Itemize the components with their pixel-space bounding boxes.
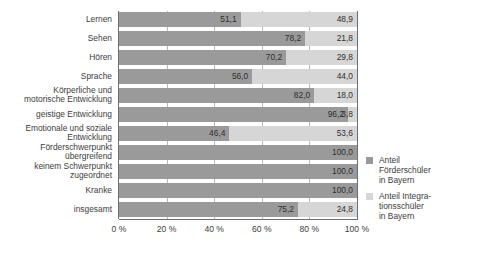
category-label: geistige Entwicklung <box>0 110 112 120</box>
legend-swatch-icon <box>366 193 373 200</box>
bar-value-label: 75,2 <box>264 202 294 217</box>
bar-value-label: 29,8 <box>323 50 353 65</box>
category-label: Sehen <box>0 34 112 44</box>
x-tick-label: 80 % <box>300 224 320 234</box>
legend-label: Anteil Integra- tionsschüler in Bayern <box>379 191 478 222</box>
bar-value-label: 100,0 <box>323 183 353 198</box>
category-label: insgesamt <box>0 205 112 215</box>
category-label: Hören <box>0 53 112 63</box>
bar-row: 75,224,8 <box>119 202 357 217</box>
chart-legend: Anteil Förderschüler in BayernAnteil Int… <box>366 155 478 226</box>
bar-value-label: 3,8 <box>323 107 353 122</box>
x-tick-label: 100 % <box>345 224 369 234</box>
category-label: keinem Schwerpunkt zugeordnet <box>0 162 112 181</box>
bar-value-label: 44,0 <box>323 69 353 84</box>
bar-row: 70,229,8 <box>119 50 357 65</box>
bar-row: 78,221,8 <box>119 31 357 46</box>
stacked-bar-chart: LernenSehenHörenSpracheKörperliche und m… <box>0 0 479 257</box>
bar-segment <box>119 183 357 198</box>
bar-row: 100,0 <box>119 164 357 179</box>
bar-value-label: 21,8 <box>323 31 353 46</box>
category-label: Sprache <box>0 72 112 82</box>
bar-row: 51,148,9 <box>119 12 357 27</box>
category-label: Körperliche und motorische Entwicklung <box>0 86 112 105</box>
bar-row: 96,23,8 <box>119 107 357 122</box>
bar-row: 46,453,6 <box>119 126 357 141</box>
bar-value-label: 46,4 <box>195 126 225 141</box>
legend-item[interactable]: Anteil Integra- tionsschüler in Bayern <box>366 191 478 222</box>
bar-value-label: 51,1 <box>207 12 237 27</box>
bar-value-label: 82,0 <box>280 88 310 103</box>
x-tick-label: 60 % <box>252 224 272 234</box>
bar-segment <box>119 145 357 160</box>
bar-value-label: 70,2 <box>252 50 282 65</box>
bar-segment <box>119 164 357 179</box>
x-tick-label: 20 % <box>157 224 177 234</box>
bar-value-label: 48,9 <box>323 12 353 27</box>
bar-value-label: 100,0 <box>323 145 353 160</box>
category-label: Kranke <box>0 186 112 196</box>
bar-value-label: 53,6 <box>323 126 353 141</box>
category-axis-labels: LernenSehenHörenSpracheKörperliche und m… <box>0 11 116 219</box>
bar-row: 82,018,0 <box>119 88 357 103</box>
x-tick-label: 40 % <box>204 224 224 234</box>
legend-label: Anteil Förderschüler in Bayern <box>379 155 478 186</box>
bar-value-label: 100,0 <box>323 164 353 179</box>
bar-row: 100,0 <box>119 145 357 160</box>
legend-swatch-icon <box>366 157 373 164</box>
plot-right-border <box>357 11 358 219</box>
legend-item[interactable]: Anteil Förderschüler in Bayern <box>366 155 478 186</box>
bar-value-label: 56,0 <box>218 69 248 84</box>
category-label: Lernen <box>0 15 112 25</box>
bar-row: 100,0 <box>119 183 357 198</box>
x-axis-line <box>119 219 358 220</box>
bar-value-label: 78,2 <box>271 31 301 46</box>
category-label: Emotionale und soziale Entwicklung <box>0 124 112 143</box>
x-tick-label: 0 % <box>112 224 127 234</box>
plot-area: 51,148,978,221,870,229,856,044,082,018,0… <box>119 11 357 219</box>
bar-value-label: 24,8 <box>323 202 353 217</box>
bar-row: 56,044,0 <box>119 69 357 84</box>
bar-value-label: 18,0 <box>323 88 353 103</box>
category-label: Förderschwerpunkt übergreifend <box>0 143 112 162</box>
